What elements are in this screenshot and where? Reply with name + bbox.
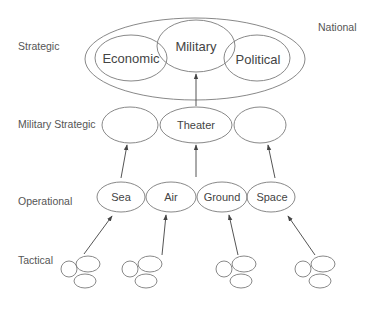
economic-label: Economic	[102, 51, 160, 66]
operational-label-ground: Ground	[204, 191, 241, 203]
military-strategic-right-node	[234, 107, 286, 143]
hierarchy-diagram: National Strategic Military Strategic Op…	[0, 0, 366, 309]
level-label-strategic: Strategic	[18, 40, 59, 52]
level-label-national: National	[318, 21, 357, 33]
operational-label-sea: Sea	[111, 191, 131, 203]
level-label-military-strategic: Military Strategic	[18, 118, 96, 130]
arrow-tactical-to-air	[162, 215, 166, 255]
tactical-cluster-2	[122, 256, 162, 288]
political-label: Political	[236, 52, 281, 67]
tactical-cluster-3	[216, 256, 256, 288]
arrow-sea-to-military-strategic	[121, 145, 127, 178]
arrow-tactical-to-ground	[229, 215, 238, 255]
operational-label-space: Space	[256, 191, 287, 203]
level-label-operational: Operational	[18, 195, 72, 207]
level-label-tactical: Tactical	[18, 254, 53, 266]
theater-label: Theater	[177, 119, 215, 131]
military-label: Military	[175, 39, 217, 54]
military-strategic-left-node	[102, 107, 158, 143]
tactical-cluster-4	[295, 256, 335, 288]
tactical-cluster-1	[61, 256, 100, 288]
arrow-space-to-military-strategic	[268, 145, 275, 178]
arrow-tactical-to-space	[288, 216, 315, 255]
operational-label-air: Air	[164, 191, 178, 203]
arrow-tactical-to-sea	[84, 216, 112, 254]
